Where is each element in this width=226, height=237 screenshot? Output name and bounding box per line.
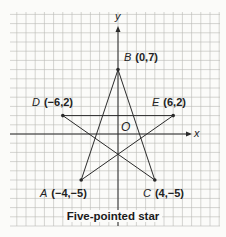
coordinate-diagram: y x O B(0,7) D(−6,2) E(6,2) A(−4,−5) C(4… xyxy=(0,0,226,237)
point-d-coords: (−6,2) xyxy=(44,96,73,108)
point-c-coords: (4,−5) xyxy=(155,187,184,199)
origin-label: O xyxy=(121,120,130,134)
point-b-name: B xyxy=(124,51,131,63)
label-point-e: E(6,2) xyxy=(152,96,186,108)
y-axis-label: y xyxy=(115,10,121,22)
point-a-coords: (−4,−5) xyxy=(51,187,86,199)
point-a-name: A xyxy=(40,187,47,199)
point-d-name: D xyxy=(32,96,40,108)
label-point-d: D(−6,2) xyxy=(32,96,73,108)
point-e-name: E xyxy=(152,96,159,108)
point-b-coords: (0,7) xyxy=(135,51,158,63)
x-axis-label: x xyxy=(194,127,200,139)
caption-text: Five-pointed star xyxy=(64,210,163,222)
point-e-coords: (6,2) xyxy=(163,96,186,108)
label-point-a: A(−4,−5) xyxy=(40,187,87,199)
star-plot xyxy=(0,0,226,237)
label-point-c: C(4,−5) xyxy=(143,187,184,199)
point-c-name: C xyxy=(143,187,151,199)
figure-caption: Five-pointed star xyxy=(0,210,226,222)
label-point-b: B(0,7) xyxy=(124,51,158,63)
